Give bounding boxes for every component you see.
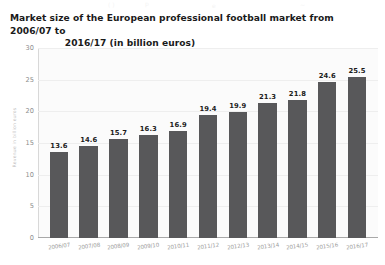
- artifact-glyph: ( ): [108, 1, 115, 8]
- bar-slot: 21.3: [253, 48, 283, 238]
- y-axis-tick-label: 20: [26, 107, 34, 115]
- bar[interactable]: [229, 112, 247, 238]
- bar-slot: 21.8: [283, 48, 313, 238]
- x-axis-tick-label: 2013/14: [256, 241, 279, 250]
- bar-value-label: 21.8: [289, 90, 306, 98]
- bar-value-label: 16.9: [170, 121, 187, 129]
- bar[interactable]: [288, 100, 306, 238]
- bar-slot: 19.9: [223, 48, 253, 238]
- x-axis-labels: 2006/072007/082008/092009/102010/112011/…: [38, 240, 378, 264]
- bar-value-label: 19.4: [199, 105, 216, 113]
- artifact-glyph: p: [145, 0, 149, 7]
- bar[interactable]: [79, 146, 97, 238]
- x-axis-tick-label: 2012/13: [226, 241, 249, 250]
- x-label-slot: 2007/08: [74, 240, 104, 264]
- bar-value-label: 25.5: [348, 67, 365, 75]
- x-axis-tick-label: 2009/10: [137, 241, 160, 250]
- bar-value-label: 13.6: [50, 142, 67, 150]
- x-label-slot: 2011/12: [193, 240, 223, 264]
- y-axis-ticks: 051015202530: [0, 48, 38, 238]
- bar-slot: 24.6: [312, 48, 342, 238]
- bar-slot: 16.3: [133, 48, 163, 238]
- y-axis-tick-label: 5: [30, 202, 34, 210]
- y-axis-tick-label: 15: [26, 139, 34, 147]
- x-label-slot: 2009/10: [133, 240, 163, 264]
- x-axis-tick-label: 2016/17: [346, 241, 369, 250]
- x-axis-tick-label: 2011/12: [197, 241, 220, 250]
- x-label-slot: 2008/09: [104, 240, 134, 264]
- bar-series: 13.614.615.716.316.919.419.921.321.824.6…: [38, 48, 378, 238]
- x-label-slot: 2012/13: [223, 240, 253, 264]
- y-axis-tick-label: 25: [26, 76, 34, 84]
- y-axis-tick-label: 10: [26, 171, 34, 179]
- bar-slot: 25.5: [342, 48, 372, 238]
- chart-title-line-1: Market size of the European professional…: [10, 12, 370, 37]
- x-label-slot: 2013/14: [253, 240, 283, 264]
- artifact-glyph: ~: [300, 1, 305, 8]
- x-label-slot: 2014/15: [283, 240, 313, 264]
- bar-value-label: 14.6: [80, 136, 97, 144]
- x-label-slot: 2015/16: [312, 240, 342, 264]
- bar-slot: 19.4: [193, 48, 223, 238]
- bar-slot: 14.6: [74, 48, 104, 238]
- bar-value-label: 24.6: [319, 72, 336, 80]
- bar[interactable]: [50, 152, 68, 238]
- bar-chart: 051015202530 Revenue in billion euros 13…: [0, 40, 385, 265]
- x-label-slot: 2006/07: [44, 240, 74, 264]
- y-axis-tick-label: 30: [26, 44, 34, 52]
- bar-value-label: 16.3: [140, 125, 157, 133]
- x-axis-tick-label: 2015/16: [316, 241, 339, 250]
- bar-value-label: 15.7: [110, 129, 127, 137]
- scan-artifacts: ( ) p e ~: [0, 0, 385, 11]
- x-label-slot: 2010/11: [163, 240, 193, 264]
- bar[interactable]: [318, 82, 336, 238]
- y-axis-tick-label: 0: [30, 234, 34, 242]
- bar[interactable]: [169, 131, 187, 238]
- bar-slot: 15.7: [104, 48, 134, 238]
- bar-slot: 13.6: [44, 48, 74, 238]
- y-axis-title: Revenue in billion euros: [12, 78, 17, 198]
- artifact-glyph: e: [212, 2, 216, 9]
- x-axis-tick-label: 2010/11: [167, 241, 190, 250]
- x-axis-tick-label: 2014/15: [286, 241, 309, 250]
- bar[interactable]: [199, 115, 217, 238]
- x-label-slot: 2016/17: [342, 240, 372, 264]
- x-axis-tick-label: 2006/07: [48, 241, 71, 250]
- bar-slot: 16.9: [163, 48, 193, 238]
- x-axis-tick-label: 2007/08: [77, 241, 100, 250]
- x-axis-tick-label: 2008/09: [107, 241, 130, 250]
- bar[interactable]: [139, 135, 157, 238]
- bar-value-label: 19.9: [229, 102, 246, 110]
- bar[interactable]: [258, 103, 276, 238]
- bar-value-label: 21.3: [259, 93, 276, 101]
- bar[interactable]: [109, 139, 127, 238]
- bar[interactable]: [348, 77, 366, 239]
